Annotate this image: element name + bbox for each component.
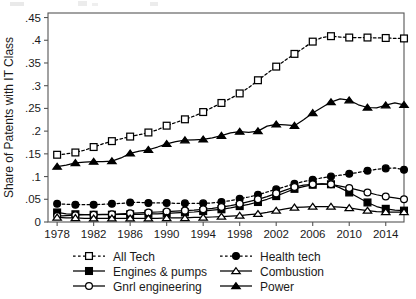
data-point-open-circle xyxy=(236,200,243,207)
data-point-filled-circle xyxy=(72,201,79,208)
data-point-filled-square xyxy=(86,268,93,275)
data-point-open-square xyxy=(364,34,371,41)
data-point-open-circle xyxy=(401,196,408,203)
y-tick-label: .45 xyxy=(25,12,41,24)
series-health-tech xyxy=(54,165,408,208)
data-point-open-circle xyxy=(291,184,298,191)
chart-legend: All TechHealth techEngines & pumpsCombus… xyxy=(73,250,324,294)
y-tick-label: 0 xyxy=(35,216,41,228)
data-point-filled-circle xyxy=(127,199,134,206)
data-point-filled-circle xyxy=(364,167,371,174)
legend-label: Health tech xyxy=(260,250,321,264)
data-point-filled-circle xyxy=(54,200,61,207)
legend-label: Combustion xyxy=(260,265,324,279)
y-tick-label: .3 xyxy=(31,80,41,92)
series-line xyxy=(57,99,404,167)
legend-entry-gnrl-engineering: Gnrl engineering xyxy=(73,280,202,294)
data-point-open-circle xyxy=(218,204,225,211)
data-point-open-square xyxy=(72,149,79,156)
legend-entry-all-tech: All Tech xyxy=(73,250,155,264)
data-point-open-square xyxy=(218,100,225,107)
patents-it-class-line-chart: 0.05.1.15.2.25.3.35.4.451978198219861990… xyxy=(0,0,416,299)
data-point-filled-circle xyxy=(163,200,170,207)
data-point-open-circle xyxy=(200,206,207,213)
data-point-filled-circle xyxy=(382,165,389,172)
legend-entry-health-tech: Health tech xyxy=(220,250,321,264)
x-axis: 1978198219861990199419982002200620102014 xyxy=(44,222,399,240)
data-point-open-square xyxy=(182,116,189,123)
x-tick-label: 1982 xyxy=(81,228,107,240)
x-tick-label: 2014 xyxy=(373,228,399,240)
data-point-filled-triangle xyxy=(327,99,335,105)
legend-label: Gnrl engineering xyxy=(113,280,202,294)
y-tick-label: .05 xyxy=(25,193,41,205)
y-axis-title: Share of Patents with IT Class xyxy=(2,37,16,198)
data-point-filled-triangle xyxy=(254,128,262,134)
data-point-open-circle xyxy=(328,181,335,188)
data-point-filled-circle xyxy=(108,200,115,207)
data-point-open-square xyxy=(200,109,207,116)
y-tick-label: .1 xyxy=(31,171,41,183)
data-point-open-circle xyxy=(86,283,93,290)
legend-entry-engines-pumps: Engines & pumps xyxy=(73,265,207,279)
data-point-open-square xyxy=(54,151,61,158)
data-point-open-circle xyxy=(273,190,280,197)
data-point-open-circle xyxy=(364,189,371,196)
x-tick-label: 2002 xyxy=(263,228,289,240)
data-point-open-square xyxy=(273,63,280,70)
y-tick-label: .15 xyxy=(25,148,41,160)
data-point-open-square xyxy=(127,133,134,140)
data-point-filled-circle xyxy=(328,173,335,180)
y-axis: 0.05.1.15.2.25.3.35.4.45 xyxy=(25,12,48,228)
data-point-open-circle xyxy=(255,196,262,203)
series-line xyxy=(57,36,404,155)
legend-label: Power xyxy=(260,280,294,294)
data-point-filled-circle xyxy=(145,200,152,207)
data-point-open-square xyxy=(236,90,243,97)
legend-label: All Tech xyxy=(113,250,155,264)
x-tick-label: 1986 xyxy=(117,228,143,240)
data-point-open-square xyxy=(309,38,316,45)
data-point-filled-circle xyxy=(346,170,353,177)
x-tick-label: 2006 xyxy=(300,228,326,240)
data-point-open-square xyxy=(108,138,115,145)
chart-figure: 0.05.1.15.2.25.3.35.4.451978198219861990… xyxy=(0,0,416,299)
series-all-tech xyxy=(54,33,408,158)
data-point-open-square xyxy=(401,35,408,42)
y-tick-label: .4 xyxy=(31,34,41,46)
y-tick-label: .2 xyxy=(31,125,41,137)
data-point-open-circle xyxy=(309,181,316,188)
data-point-open-square xyxy=(255,77,262,84)
series-engines-pumps xyxy=(54,181,408,218)
data-point-open-square xyxy=(346,34,353,41)
data-point-filled-circle xyxy=(90,201,97,208)
data-point-open-circle xyxy=(346,185,353,192)
data-point-open-square xyxy=(86,253,93,260)
x-tick-label: 1978 xyxy=(44,228,70,240)
data-point-open-square xyxy=(145,129,152,136)
data-point-open-square xyxy=(382,35,389,42)
data-point-open-circle xyxy=(382,193,389,200)
data-point-open-circle xyxy=(182,207,189,214)
data-point-filled-circle xyxy=(233,253,240,260)
data-point-open-square xyxy=(328,33,335,40)
data-point-filled-circle xyxy=(401,166,408,173)
x-tick-label: 1990 xyxy=(154,228,180,240)
y-tick-label: .35 xyxy=(25,57,41,69)
data-point-open-square xyxy=(291,50,298,57)
data-point-filled-square xyxy=(364,199,371,206)
series-power xyxy=(53,97,408,169)
data-point-open-square xyxy=(90,144,97,151)
series-gnrl-engineering xyxy=(54,181,408,220)
y-tick-label: .25 xyxy=(25,102,41,114)
legend-entry-power: Power xyxy=(220,280,294,294)
legend-label: Engines & pumps xyxy=(113,265,207,279)
data-point-filled-circle xyxy=(182,200,189,207)
x-tick-label: 1998 xyxy=(227,228,253,240)
data-point-open-square xyxy=(163,122,170,129)
legend-entry-combustion: Combustion xyxy=(220,265,324,279)
x-tick-label: 2010 xyxy=(336,228,362,240)
x-tick-label: 1994 xyxy=(190,228,216,240)
